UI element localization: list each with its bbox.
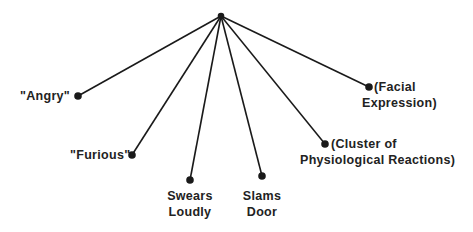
node-dot-slams xyxy=(259,173,265,179)
diagram-edges xyxy=(0,0,473,232)
label-line: Swears xyxy=(162,188,218,204)
root-node-dot xyxy=(219,14,224,19)
node-label-cluster: (Cluster of Physiological Reactions) xyxy=(300,136,455,168)
label-line: Door xyxy=(238,204,286,220)
label-line: Slams xyxy=(238,188,286,204)
node-label-angry: "Angry" xyxy=(20,88,70,104)
label-line: Physiological Reactions) xyxy=(300,152,455,168)
node-dot-angry xyxy=(75,93,81,99)
node-label-furious: "Furious" xyxy=(70,147,130,163)
node-label-swears: Swears Loudly xyxy=(162,188,218,220)
edge-facial xyxy=(221,16,369,87)
node-label-facial: (Facial Expression) xyxy=(362,79,437,111)
label-line: Loudly xyxy=(162,204,218,220)
label-line: "Angry" xyxy=(20,89,70,103)
edge-angry xyxy=(78,16,221,96)
node-label-slams: Slams Door xyxy=(238,188,286,220)
label-line: (Cluster of xyxy=(300,136,455,152)
label-line: Expression) xyxy=(362,95,437,111)
label-line: (Facial xyxy=(362,79,437,95)
label-line: "Furious" xyxy=(70,148,130,162)
node-dot-swears xyxy=(187,177,193,183)
